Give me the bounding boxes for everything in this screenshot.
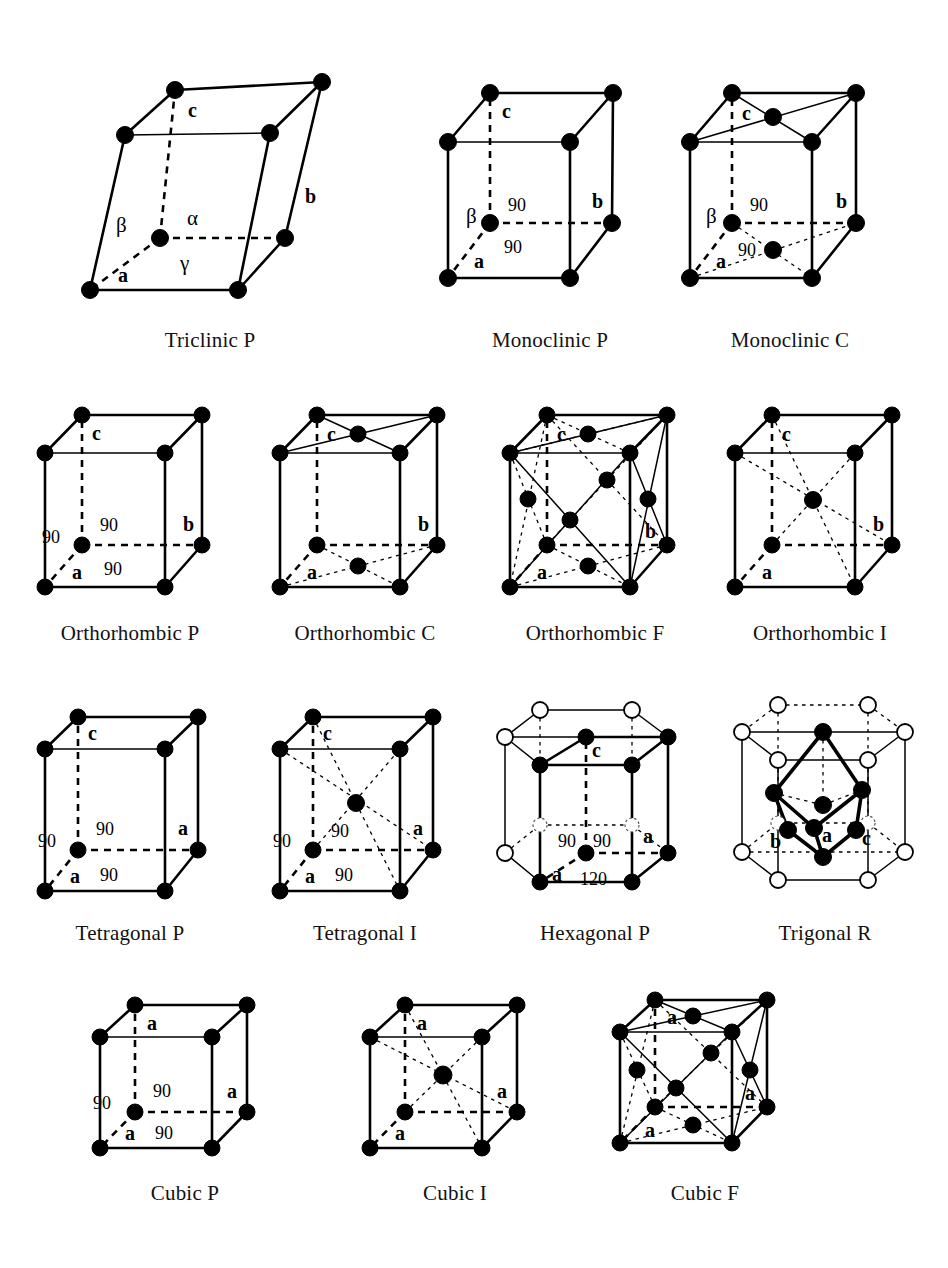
angle-value-90-right: 90 — [593, 831, 611, 851]
lattice-point — [167, 82, 184, 99]
lattice-point-origin — [539, 537, 555, 553]
caption-triclinic-p: Triclinic P — [60, 328, 360, 353]
angle-value-90-top: 90 — [508, 195, 526, 215]
angle-label-beta: β — [116, 213, 127, 237]
axis-label-c: c — [327, 423, 336, 445]
face-center-point-bottom — [580, 558, 596, 574]
lattice-diagram-monoclinic-p: c b a β 90 90 Monoclinic P — [420, 60, 680, 360]
lattice-diagram-orthorhombic-c: c b a Orthorhombic C — [255, 395, 475, 645]
axis-label-a-top: a — [667, 1006, 677, 1028]
lattice-point — [539, 407, 555, 423]
axis-label-b: b — [305, 185, 316, 207]
edge-top-front — [125, 133, 270, 135]
lattice-point — [362, 1029, 378, 1045]
lattice-point — [157, 445, 173, 461]
outer-lattice-point-open — [532, 702, 548, 718]
face-center-point-front — [668, 1080, 684, 1096]
angle-value-90-bottom: 90 — [504, 237, 522, 257]
face-center-point-left — [520, 491, 536, 507]
angle-value-90-bottom: 90 — [335, 865, 353, 885]
lattice-point — [727, 579, 743, 595]
triclinic-p-svg: c b a β α γ — [60, 60, 360, 320]
axis-label-c: c — [188, 99, 197, 121]
body-center-point — [348, 795, 365, 812]
outer-lattice-point-open — [734, 724, 750, 740]
outer-lattice-point-open — [860, 872, 876, 888]
lattice-point-origin — [309, 537, 325, 553]
lattice-point — [605, 85, 622, 102]
axis-label-c: c — [782, 423, 791, 445]
axis-label-b: b — [836, 190, 847, 212]
axis-label-b: b — [645, 520, 656, 542]
axis-label-a: a — [72, 561, 82, 583]
axis-label-a: a — [118, 264, 128, 286]
rhombo-vertex — [854, 782, 871, 799]
lattice-point — [440, 270, 457, 287]
lattice-point — [272, 579, 288, 595]
angle-label-gamma: γ — [179, 251, 189, 275]
edge-bottom-right — [570, 223, 612, 278]
edge-dashed-back-c — [160, 90, 175, 238]
lattice-point — [157, 883, 173, 899]
lattice-point — [727, 445, 743, 461]
lattice-point — [847, 579, 863, 595]
lattice-point-origin — [647, 1099, 663, 1115]
angle-value-90-top: 90 — [153, 1081, 171, 1101]
angle-value-90-top: 90 — [750, 195, 768, 215]
axis-label-a: a — [537, 561, 547, 583]
angle-value-90-left: 90 — [273, 831, 291, 851]
lattice-point — [482, 85, 499, 102]
lattice-point — [724, 85, 741, 102]
lattice-point-origin — [764, 537, 780, 553]
lattice-point — [204, 1029, 220, 1045]
lattice-point — [622, 579, 638, 595]
lattice-point — [764, 407, 780, 423]
axis-label-c: c — [502, 100, 511, 122]
edge-top-right — [570, 93, 613, 142]
axis-label-b: b — [418, 513, 429, 535]
caption-monoclinic-p: Monoclinic P — [420, 328, 680, 353]
axis-label-a-right: a — [497, 1080, 507, 1102]
axis-label-c: c — [862, 827, 871, 849]
monoclinic-c-svg: c b a β 90 90 — [660, 60, 920, 320]
angle-value-90-left: 90 — [558, 831, 576, 851]
axis-label-b: b — [770, 830, 781, 852]
lattice-point — [659, 537, 675, 553]
lattice-point-origin — [724, 215, 741, 232]
lattice-point — [392, 883, 408, 899]
lattice-point — [392, 741, 408, 757]
axis-label-a-front: a — [395, 1122, 405, 1144]
edge-vert-right-back — [285, 82, 322, 238]
lattice-point — [532, 757, 548, 773]
edge-top-right — [812, 93, 856, 142]
caption-orthorhombic-c: Orthorhombic C — [255, 621, 475, 646]
lattice-point — [92, 1029, 108, 1045]
outer-lattice-point-open — [497, 729, 513, 745]
axis-label-b: b — [873, 513, 884, 535]
lattice-point — [397, 997, 413, 1013]
lattice-point — [659, 407, 675, 423]
axis-label-c: c — [742, 102, 751, 124]
lattice-point — [392, 445, 408, 461]
lattice-point — [682, 134, 699, 151]
lattice-point — [429, 537, 445, 553]
lattice-point — [190, 842, 206, 858]
lattice-point-origin — [127, 1104, 143, 1120]
rhombo-vertex-top — [815, 724, 832, 741]
lattice-point — [532, 874, 548, 890]
lattice-point — [759, 1099, 775, 1115]
outer-lattice-point-open — [734, 844, 750, 860]
lattice-point-origin — [482, 215, 499, 232]
lattice-point — [82, 282, 99, 299]
axis-label-a: a — [822, 824, 832, 846]
lattice-point — [562, 134, 579, 151]
lattice-point-origin — [70, 842, 86, 858]
outer-lattice-point-open — [497, 845, 513, 861]
outer-lattice-point-open — [860, 752, 876, 768]
lattice-point — [392, 579, 408, 595]
face-center-point-right — [742, 1062, 758, 1078]
lattice-point — [724, 1024, 740, 1040]
lattice-diagram-hexagonal-p: c a a 90 90 120 Hexagonal P — [480, 695, 710, 955]
outer-lattice-point-open — [624, 702, 640, 718]
angle-value-90-left: 90 — [93, 1093, 111, 1113]
